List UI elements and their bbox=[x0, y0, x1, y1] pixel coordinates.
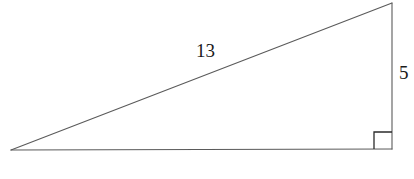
background-rect bbox=[0, 0, 414, 179]
figure-canvas: 13 5 bbox=[0, 0, 414, 179]
hypotenuse-length-label: 13 bbox=[196, 41, 215, 60]
vertical-leg-length-label: 5 bbox=[399, 63, 409, 82]
right-triangle-diagram bbox=[0, 0, 414, 179]
